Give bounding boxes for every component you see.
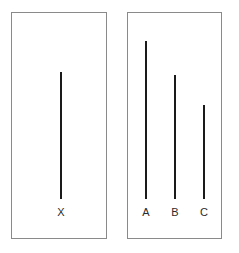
line-judgment-figure: X A B C: [0, 0, 239, 253]
standard-panel: X: [11, 12, 107, 239]
comparison-line-c: [203, 105, 205, 199]
comparison-line-a: [145, 41, 147, 199]
comparison-panel: A B C: [127, 12, 222, 239]
standard-line-label-x: X: [57, 207, 65, 218]
standard-line-x: [60, 72, 62, 199]
comparison-line-b: [174, 75, 176, 199]
comparison-line-label-b: B: [171, 207, 179, 218]
comparison-line-label-c: C: [200, 207, 208, 218]
comparison-line-label-a: A: [142, 207, 150, 218]
